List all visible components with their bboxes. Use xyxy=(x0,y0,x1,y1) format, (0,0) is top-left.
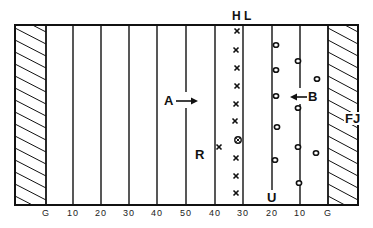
yard-label: 30 xyxy=(123,208,135,218)
direction-arrows xyxy=(176,94,307,105)
offense-player-x xyxy=(235,29,240,34)
defense-player-o xyxy=(296,181,301,186)
defense-player-o xyxy=(313,151,318,156)
defense-player-o xyxy=(272,158,277,163)
offense-player-x xyxy=(235,84,240,89)
offense-player-x xyxy=(235,66,240,71)
defense-player-o xyxy=(314,77,319,82)
yard-label: 10 xyxy=(294,208,306,218)
yard-label: 50 xyxy=(180,208,192,218)
arrow-a-head xyxy=(191,98,198,105)
offense-player-x xyxy=(234,191,239,196)
defense-player-o xyxy=(295,145,300,150)
defense-player-o xyxy=(295,106,300,111)
defense-player-o xyxy=(295,59,300,64)
left-endzone-hatching xyxy=(15,0,46,228)
field-judge-label: FJ xyxy=(344,112,361,125)
referee-label: R xyxy=(195,148,204,161)
offense-player-x xyxy=(234,48,239,53)
offense-players xyxy=(217,29,240,196)
defense-players xyxy=(272,43,319,186)
football-field-diagram xyxy=(0,0,373,228)
offense-player-x xyxy=(234,174,239,179)
yard-lines xyxy=(46,25,328,205)
umpire-label: U xyxy=(267,191,276,204)
yard-label: 20 xyxy=(266,208,278,218)
team-b-label: B xyxy=(308,90,317,103)
yard-label: G xyxy=(42,208,50,218)
yard-label: G xyxy=(324,208,332,218)
yard-label: 20 xyxy=(95,208,107,218)
defense-player-o xyxy=(273,68,278,73)
offense-player-x xyxy=(217,145,222,150)
head-linesman-label: H L xyxy=(232,10,251,22)
yard-label: 40 xyxy=(151,208,163,218)
defense-player-o xyxy=(273,43,278,48)
yard-label: 30 xyxy=(237,208,249,218)
defense-player-o xyxy=(274,125,279,130)
defense-player-o xyxy=(273,94,278,99)
yard-label: 10 xyxy=(67,208,79,218)
yard-label: 40 xyxy=(209,208,221,218)
offense-player-x xyxy=(234,102,239,107)
offense-player-x xyxy=(233,119,238,124)
team-a-label: A xyxy=(164,94,173,107)
ball-marker xyxy=(235,137,241,143)
offense-player-x xyxy=(234,156,239,161)
arrow-b-head xyxy=(290,94,297,101)
